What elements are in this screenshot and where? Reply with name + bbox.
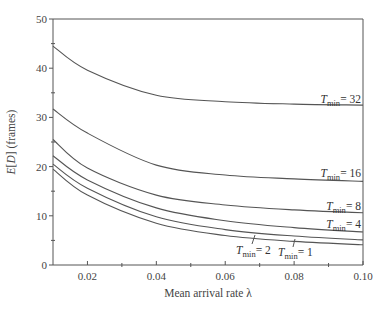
y-tick-label: 10	[36, 210, 48, 222]
line-chart: 01020304050 0.020.040.060.080.10 Mean ar…	[0, 0, 389, 312]
curve-series-0	[53, 46, 363, 105]
x-tick-label: 0.04	[147, 270, 167, 282]
x-ticks: 0.020.040.060.080.10	[78, 261, 373, 282]
series-curves	[53, 46, 363, 245]
label-tmin-1: Tmin= 1	[278, 246, 313, 261]
y-tick-label: 50	[36, 13, 48, 25]
y-tick-label: 30	[36, 111, 48, 123]
label-tmin-2: Tmin= 2	[236, 244, 271, 259]
x-axis-label: Mean arrival rate λ	[164, 287, 252, 299]
x-tick-label: 0.10	[353, 270, 373, 282]
leader-line-tmin-2	[252, 235, 255, 244]
x-tick-label: 0.06	[216, 270, 236, 282]
curve-series-1	[53, 109, 363, 181]
curve-series-5	[53, 169, 363, 245]
y-axis-label: E[D] (frames)	[5, 109, 18, 175]
curve-series-4	[53, 164, 363, 240]
label-tmin-32: Tmin= 32	[320, 93, 361, 108]
y-tick-label: 0	[42, 259, 48, 271]
x-tick-label: 0.02	[78, 270, 97, 282]
plot-frame	[53, 19, 363, 265]
label-tmin-4: Tmin= 4	[326, 218, 361, 233]
leader-line-tmin-1	[293, 239, 295, 247]
y-ticks: 01020304050	[36, 13, 55, 271]
label-tmin-16: Tmin= 16	[320, 167, 361, 182]
y-tick-label: 20	[36, 161, 48, 173]
x-tick-label: 0.08	[284, 270, 304, 282]
y-tick-label: 40	[36, 62, 48, 74]
